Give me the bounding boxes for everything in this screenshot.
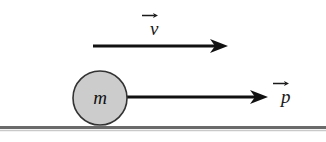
diagram-canvas <box>0 0 326 142</box>
mass-label: m <box>73 71 127 125</box>
velocity-arrow <box>93 39 228 53</box>
momentum-symbol: p <box>281 78 291 106</box>
momentum-vector-label: p <box>281 78 291 106</box>
velocity-symbol: v <box>150 10 158 38</box>
velocity-vector-label: v <box>150 10 158 38</box>
momentum-arrow <box>127 90 268 104</box>
physics-diagram-momentum: m v p <box>0 0 326 142</box>
mass-symbol: m <box>93 87 107 109</box>
ground-surface <box>0 128 326 131</box>
